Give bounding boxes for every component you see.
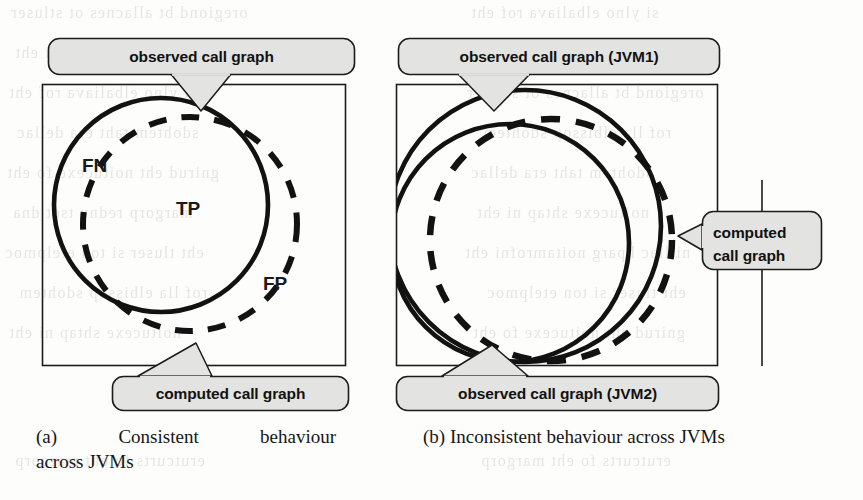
callout-tail <box>138 343 212 376</box>
callout-tail <box>678 224 702 250</box>
label-fp: FP <box>263 273 288 294</box>
caption-line-1: (a) Consistent behaviour <box>36 424 336 449</box>
callout-label-line1: computed <box>713 224 786 241</box>
callout-computed-call-graph-b[interactable]: computed call graph <box>678 180 822 366</box>
caption-full: (b) Inconsistent behaviour across JVMs <box>423 426 725 447</box>
callout-computed-call-graph-a[interactable]: computed call graph <box>113 343 349 411</box>
label-tp: TP <box>176 198 201 219</box>
callout-observed-call-graph-a[interactable]: observed call graph <box>49 39 355 112</box>
panel-a: FN TP FP observed call graph computed ca… <box>43 39 355 411</box>
panel-b: observed call graph (JVM1) computed call… <box>389 39 822 411</box>
figure-page: oregiond bt allacnes ot stluser ni llac … <box>0 0 863 500</box>
label-fn: FN <box>82 155 107 176</box>
observed-call-graph-jvm2-circle <box>391 124 629 362</box>
caption-panel-a: (a) Consistent behaviour across JVMs <box>36 424 366 474</box>
callout-tail <box>170 73 232 111</box>
callout-label: computed call graph <box>156 385 306 402</box>
callout-label: observed call graph <box>129 48 274 65</box>
callout-label-line2: call graph <box>713 247 785 264</box>
observed-call-graph-circle <box>54 98 268 312</box>
caption-word-1: Consistent <box>118 424 198 449</box>
callout-observed-call-graph-jvm2[interactable]: observed call graph (JVM2) <box>397 345 719 411</box>
callout-label: observed call graph (JVM1) <box>460 48 659 65</box>
caption-panel-b: (b) Inconsistent behaviour across JVMs <box>423 424 853 449</box>
caption-line-2: across JVMs <box>36 449 366 474</box>
panel-b-venn <box>389 90 672 362</box>
computed-call-graph-circle <box>430 119 672 361</box>
callout-label: observed call graph (JVM2) <box>458 385 657 402</box>
caption-label: (a) <box>36 424 57 449</box>
callout-observed-call-graph-jvm1[interactable]: observed call graph (JVM1) <box>399 39 720 112</box>
caption-word-2: behaviour <box>260 424 336 449</box>
